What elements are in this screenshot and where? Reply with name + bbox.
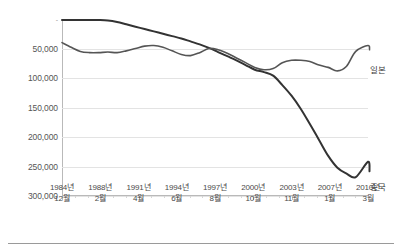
series-line-일본: [62, 43, 370, 71]
line-chart: -50,000100,000150,000200,000250,000300,0…: [0, 0, 402, 252]
x-label-month: 3월: [345, 193, 391, 204]
y-axis-tick-label: 50,000: [4, 44, 58, 54]
series-lines: [62, 19, 368, 196]
y-axis-tick-label: 100,000: [4, 73, 58, 83]
plot-area: -50,000100,000150,000200,000250,000300,0…: [62, 19, 368, 196]
series-line-중국: [62, 20, 370, 178]
y-axis-tick-label: 200,000: [4, 132, 58, 142]
bottom-divider: [8, 243, 394, 244]
japan-series-label: 일본: [370, 63, 386, 75]
y-axis-tick-label: 250,000: [4, 162, 58, 172]
china-series-label: 중국: [370, 180, 386, 192]
y-axis-tick-label: 150,000: [4, 103, 58, 113]
y-axis-tick-label: -: [4, 16, 58, 23]
